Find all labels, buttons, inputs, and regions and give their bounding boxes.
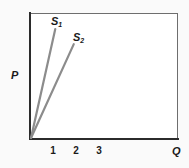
x-axis-label: Q [172, 146, 181, 157]
curve-label-s1: S1 [51, 16, 62, 27]
curve-label-s1-subscript: 1 [58, 21, 62, 28]
y-axis-label: P [11, 70, 18, 81]
y-axis-line [29, 12, 31, 140]
x-tick-label-1: 1 [46, 146, 60, 156]
x-axis-line [29, 138, 179, 140]
curve-label-s2-subscript: 2 [80, 37, 84, 44]
supply-curve-chart: P Q 1 2 3 S1 S2 [0, 0, 189, 168]
plot-frame [30, 13, 178, 139]
curve-label-s2: S2 [73, 32, 84, 43]
x-tick-label-3: 3 [92, 146, 106, 156]
x-tick-label-2: 2 [69, 146, 83, 156]
